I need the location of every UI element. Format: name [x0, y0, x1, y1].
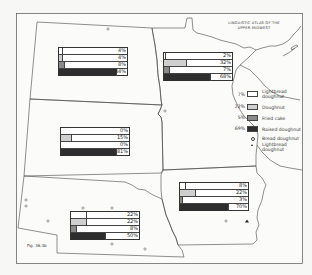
doughnut-swatch: [247, 104, 258, 110]
bar-percent-label: 84%: [115, 68, 126, 75]
bar-chart-nebraska: 22%22%8%50%: [70, 211, 140, 240]
bar-fill: [71, 233, 106, 240]
bread-doughnut-marker: [111, 207, 113, 209]
bread-doughnut-marker: [82, 207, 84, 209]
bar-percent-label: 22%: [127, 211, 138, 218]
bar-fill: [71, 226, 77, 232]
bar-percent-label: 81%: [117, 148, 128, 155]
bread-doughnut-marker: [144, 248, 146, 250]
bar-fill: [180, 190, 196, 196]
bar-fill: [59, 55, 63, 61]
raised-swatch: [247, 126, 258, 132]
bar-fill: [61, 149, 117, 156]
bar-chart-north-dakota: 4%4%8%84%: [58, 47, 128, 76]
bar-percent-label: 0%: [120, 127, 128, 134]
bar-row-doughnut: 32%: [164, 60, 232, 67]
bar-chart-iowa: 8%22%3%70%: [179, 182, 249, 211]
bar-percent-label: 32%: [220, 59, 231, 66]
legend-pct: 69%: [233, 126, 245, 131]
bread-doughnut-marker: [164, 110, 166, 112]
bar-row-raised: 50%: [71, 233, 139, 240]
triangle-symbol-icon: [251, 144, 253, 146]
bar-fill: [164, 67, 170, 73]
bar-row-doughnut: 4%: [59, 55, 127, 62]
bread-doughnut-marker: [47, 220, 49, 222]
figure-label: Fig. 36.3b: [27, 243, 47, 248]
bread-doughnut-marker: [111, 243, 113, 245]
legend-label: Lightbreaddoughnut: [262, 142, 287, 152]
bread-doughnut-marker: [225, 220, 227, 222]
legend-label: Raised doughnut: [262, 127, 301, 132]
bar-percent-label: 68%: [220, 73, 231, 80]
lightbread-swatch: [247, 91, 258, 97]
legend-label: Bread doughnut: [262, 136, 299, 141]
bar-fill: [180, 183, 186, 189]
bar-fill: [164, 53, 166, 59]
bar-row-doughnut: 22%: [71, 219, 139, 226]
bar-percent-label: 50%: [127, 232, 138, 239]
bar-percent-label: 70%: [236, 203, 247, 210]
fried-cake-swatch: [247, 115, 258, 121]
bar-percent-label: 4%: [118, 54, 126, 61]
bar-percent-label: 8%: [118, 61, 126, 68]
bar-fill: [59, 69, 117, 76]
bar-fill: [180, 197, 183, 203]
legend-label: Fried cake: [262, 116, 285, 121]
bread-doughnut-marker: [25, 205, 27, 207]
bar-row-raised: 84%: [59, 69, 127, 76]
legend-pct: 5%: [233, 115, 245, 120]
circle-symbol-icon: [251, 137, 255, 141]
bar-fill: [164, 74, 211, 81]
bar-fill: [71, 212, 87, 218]
bar-row-raised: 70%: [180, 204, 248, 211]
bar-percent-label: 4%: [118, 47, 126, 54]
bar-fill: [71, 219, 87, 225]
bar-percent-label: 7%: [223, 66, 231, 73]
bar-fill: [61, 135, 72, 141]
legend-label: Lightbreaddoughnut: [262, 89, 287, 99]
map-title: LINGUISTIC ATLAS OF THE UPPER MIDWEST: [214, 21, 294, 30]
bar-percent-label: 15%: [117, 134, 128, 141]
bar-row-doughnut: 15%: [61, 135, 129, 142]
bar-row-lightbread: 4%: [59, 48, 127, 55]
bar-row-doughnut: 22%: [180, 190, 248, 197]
title-line-2: UPPER MIDWEST: [214, 26, 294, 31]
bar-percent-label: 22%: [127, 218, 138, 225]
bar-fill: [59, 48, 63, 54]
bar-percent-label: 2%: [223, 52, 231, 59]
bar-fill: [180, 204, 229, 211]
legend-pct: 22%: [233, 104, 245, 109]
legend-label: Doughnut: [262, 105, 285, 110]
bar-percent-label: 22%: [236, 189, 247, 196]
bar-fill: [59, 62, 65, 68]
bar-percent-label: 8%: [130, 225, 138, 232]
legend-pct: 7%: [233, 92, 245, 97]
bread-doughnut-marker: [25, 199, 27, 201]
bread-doughnut-marker: [107, 28, 109, 30]
bar-chart-minnesota: 2%32%7%68%: [163, 52, 233, 81]
bar-row-raised: 68%: [164, 74, 232, 81]
bar-percent-label: 0%: [120, 141, 128, 148]
bar-percent-label: 8%: [239, 182, 247, 189]
bar-row-raised: 81%: [61, 149, 129, 156]
bar-chart-south-dakota: 0%15%0%81%: [60, 127, 130, 156]
bar-fill: [164, 60, 187, 66]
bar-percent-label: 3%: [239, 196, 247, 203]
